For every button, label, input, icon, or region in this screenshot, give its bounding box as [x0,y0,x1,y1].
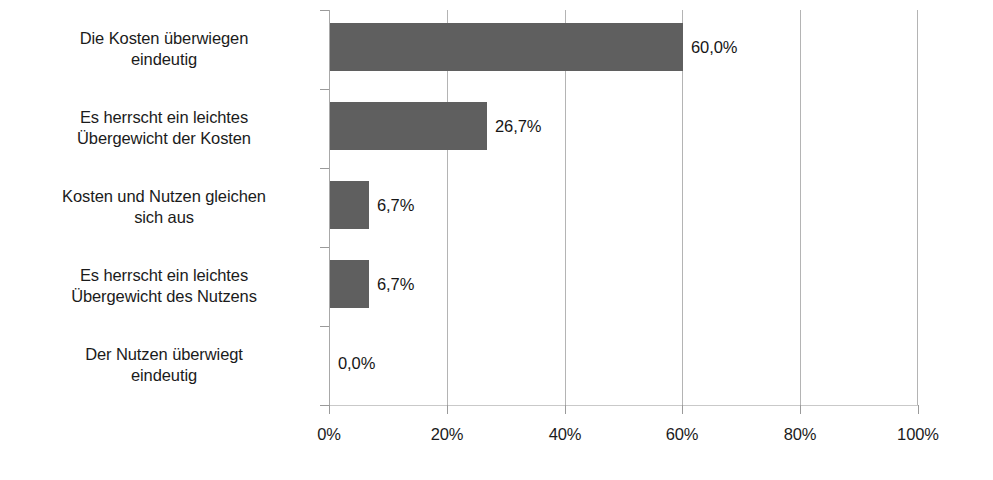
x-axis-tick-80 [800,405,801,414]
category-label-4: Der Nutzen überwiegt eindeutig [9,344,319,386]
x-axis-line [329,405,919,406]
y-axis-tick [320,247,329,248]
x-axis-tick-20 [447,405,448,414]
x-axis-label-0: 0% [289,424,369,444]
x-axis-tick-60 [682,405,683,414]
bar-3 [330,260,369,308]
x-axis-tick-0 [329,405,330,414]
gridline-100 [917,10,918,405]
category-label-3: Es herrscht ein leichtes Übergewicht des… [9,265,319,307]
y-axis-tick [320,10,329,11]
bar-value-1: 26,7% [495,117,541,135]
x-axis-tick-100 [918,405,919,414]
plot-area: 60,0% 26,7% 6,7% 6,7% 0,0% [329,10,918,405]
category-label-0: Die Kosten überwiegen eindeutig [9,28,319,70]
bar-0 [330,23,683,71]
x-axis-label-40: 40% [525,424,605,444]
x-axis-label-60: 60% [642,424,722,444]
bar-value-0: 60,0% [691,38,737,56]
x-axis-tick-40 [565,405,566,414]
y-axis-tick [320,326,329,327]
bar-1 [330,102,487,150]
category-label-1: Es herrscht ein leichtes Übergewicht der… [9,107,319,149]
bar-value-2: 6,7% [377,196,414,214]
x-axis-label-100: 100% [878,424,958,444]
gridline-80 [800,10,801,405]
bar-value-4: 0,0% [338,354,375,372]
bar-2 [330,181,369,229]
category-label-2: Kosten und Nutzen gleichen sich aus [9,186,319,228]
bar-value-3: 6,7% [377,275,414,293]
horizontal-bar-chart: Die Kosten überwiegen eindeutig Es herrs… [0,0,993,480]
y-axis-tick [320,89,329,90]
y-axis-tick [320,405,329,406]
y-axis-tick [320,168,329,169]
x-axis-label-20: 20% [407,424,487,444]
x-axis-label-80: 80% [760,424,840,444]
